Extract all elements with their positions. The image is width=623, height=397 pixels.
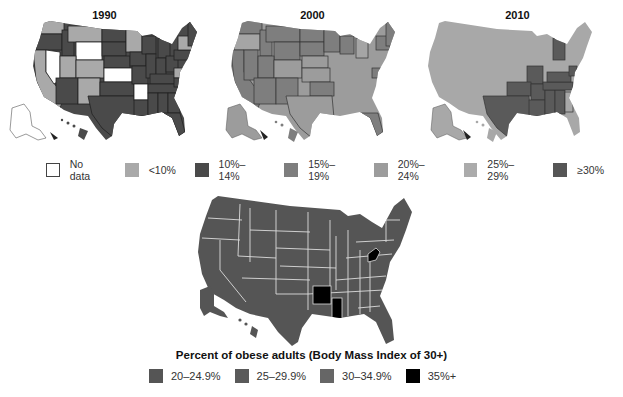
legend-swatch <box>406 369 420 383</box>
legend-item-gte30: ≥30% <box>553 163 604 177</box>
legend-swatch <box>284 163 298 177</box>
legend-label: ≥30% <box>577 164 604 176</box>
legend-label: 20–24.9% <box>171 370 221 382</box>
map-2000: 2000 <box>210 0 415 155</box>
legend-swatch <box>235 369 249 383</box>
legend-label: No data <box>70 158 106 182</box>
legend-swatch <box>46 163 60 177</box>
legend-item-lt10: <10% <box>125 163 176 177</box>
legend-swatch <box>464 163 478 177</box>
legend-swatch <box>195 163 209 177</box>
legend-top: No data <10% 10%–14% 15%–19% 20%–24% 25%… <box>46 161 623 179</box>
legend-item-no-data: No data <box>46 158 106 182</box>
us-map-2000 <box>210 0 415 155</box>
legend-swatch <box>149 369 163 383</box>
legend-item-20-24.9: 20–24.9% <box>149 369 221 383</box>
legend-item-20-24: 20%–24% <box>374 158 445 182</box>
legend-bottom: 20–24.9% 25–29.9% 30–34.9% 35%+ <box>149 369 470 383</box>
legend-label: 15%–19% <box>308 158 355 182</box>
legend-swatch <box>553 163 567 177</box>
legend-item-25-29: 25%–29% <box>464 158 535 182</box>
legend-item-15-19: 15%–19% <box>284 158 355 182</box>
legend-item-35plus: 35%+ <box>406 369 456 383</box>
legend-label: 35%+ <box>428 370 456 382</box>
legend-swatch <box>374 163 388 177</box>
legend-label: 10%–14% <box>219 158 266 182</box>
alaska-1990 <box>10 104 46 140</box>
legend-swatch <box>320 369 334 383</box>
legend-label: 25%–29% <box>487 158 534 182</box>
legend-label: 20%–24% <box>398 158 445 182</box>
legend-label: <10% <box>149 164 176 176</box>
map-2010: 2010 <box>415 0 620 155</box>
legend-item-10-14: 10%–14% <box>195 158 266 182</box>
legend-item-25-29.9: 25–29.9% <box>235 369 307 383</box>
bottom-chart-title: Percent of obese adults (Body Mass Index… <box>0 349 623 361</box>
legend-item-30-34.9: 30–34.9% <box>320 369 392 383</box>
us-map-current <box>180 190 440 350</box>
legend-swatch <box>125 163 139 177</box>
map-1990: 1990 <box>2 0 207 155</box>
legend-label: 25–29.9% <box>257 370 307 382</box>
us-map-2010 <box>415 0 620 155</box>
us-map-1990 <box>2 0 207 155</box>
legend-label: 30–34.9% <box>342 370 392 382</box>
